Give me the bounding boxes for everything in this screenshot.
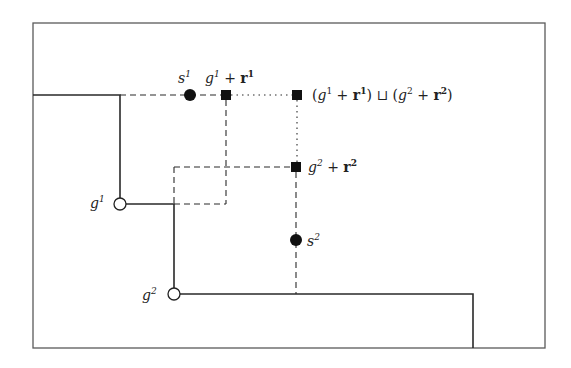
s2-point <box>290 234 302 246</box>
s2-label: s2 <box>307 232 320 249</box>
s1-point <box>184 89 196 101</box>
join-square <box>292 90 302 100</box>
g1-plus-r1-label: g1 + r1 <box>205 69 254 86</box>
s1-label: s1 <box>178 69 191 86</box>
g1-label: g1 <box>90 194 105 211</box>
g1-point <box>114 198 126 210</box>
g2-label: g2 <box>142 286 157 303</box>
g2-plus-r2-square <box>291 162 301 172</box>
diagram-canvas: s1 g1 + r1 (g1 + r1) ⊔ (g2 + r2) g2 + r2… <box>0 0 571 368</box>
staircase-boundary <box>33 95 473 348</box>
join-label: (g1 + r1) ⊔ (g2 + r2) <box>312 86 453 103</box>
dashed-lines <box>120 95 296 294</box>
g1-plus-r1-square <box>221 90 231 100</box>
g2-plus-r2-label: g2 + r2 <box>308 158 357 175</box>
g2-point <box>168 288 180 300</box>
frame <box>33 23 545 348</box>
dotted-lines <box>231 95 297 162</box>
